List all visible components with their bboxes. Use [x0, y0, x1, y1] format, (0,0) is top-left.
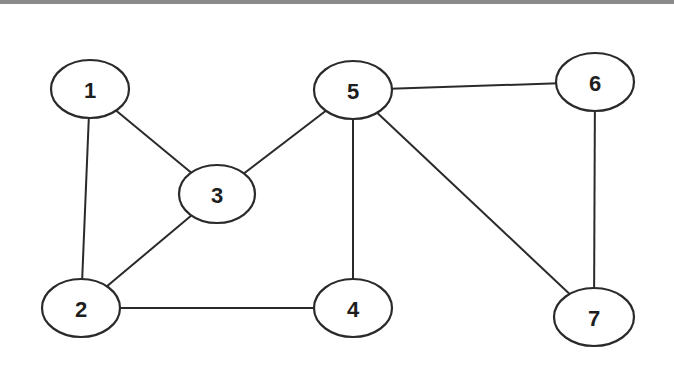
nodes-group: 1234567	[42, 53, 634, 346]
node-label: 6	[589, 71, 601, 96]
node-label: 3	[211, 183, 223, 208]
edge-1-2	[81, 89, 90, 308]
node-label: 1	[84, 78, 96, 103]
edge-6-7	[594, 82, 595, 317]
node-label: 2	[75, 297, 87, 322]
node-7: 7	[554, 288, 634, 346]
node-4: 4	[314, 279, 392, 337]
node-label: 5	[347, 79, 359, 104]
graph-diagram: 1234567	[0, 0, 674, 369]
node-label: 7	[588, 306, 600, 331]
node-2: 2	[42, 279, 120, 337]
edge-5-7	[353, 90, 594, 317]
node-label: 4	[347, 297, 360, 322]
node-5: 5	[314, 61, 392, 119]
node-3: 3	[179, 165, 255, 223]
node-1: 1	[51, 60, 129, 118]
node-6: 6	[556, 53, 634, 111]
